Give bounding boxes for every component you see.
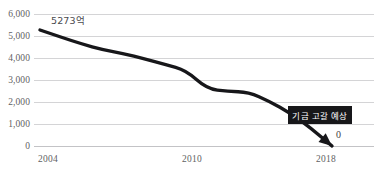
end-value-annotation: 0 [336, 130, 341, 140]
start-value-annotation: 5273억 [51, 16, 85, 26]
series-line-fund-balance [40, 30, 332, 146]
fund-depletion-line-chart: 6,000 5,000 4,000 3,000 2,000 1,000 0 20… [0, 0, 374, 174]
series-line-layer [0, 0, 374, 174]
depletion-callout-badge: 기금 고갈 예상 [288, 106, 352, 124]
